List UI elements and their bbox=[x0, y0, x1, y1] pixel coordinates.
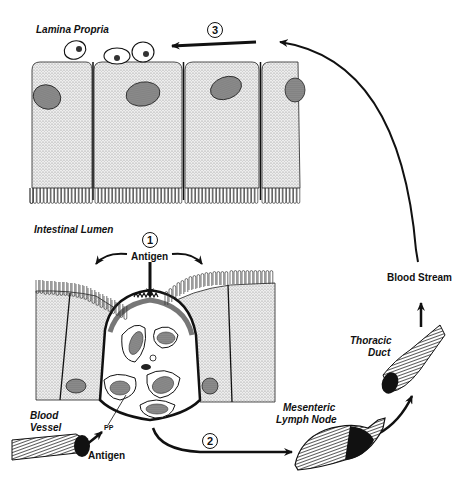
top-epithelium bbox=[30, 62, 305, 204]
bloodstream-to-lamina-arrow bbox=[280, 42, 418, 262]
blood-vessel-label-line1: Blood bbox=[30, 410, 58, 421]
mesenteric-label-line1: Mesenteric bbox=[283, 402, 335, 413]
diagram-canvas bbox=[0, 0, 471, 485]
mesenteric-label-line2: Lymph Node bbox=[276, 414, 337, 425]
thoracic-duct-label-line1: Thoracic bbox=[350, 335, 392, 346]
blood-vessel-label-line2: Vessel bbox=[30, 422, 61, 433]
step-3-arrow bbox=[172, 42, 256, 46]
lamina-propria-label: Lamina Propria bbox=[36, 24, 109, 35]
step-2-badge: 2 bbox=[202, 433, 218, 449]
antigen-label-top: Antigen bbox=[131, 251, 168, 262]
step-3-badge: 3 bbox=[207, 22, 223, 38]
mesenteric-lymph-node-drawing bbox=[295, 418, 385, 470]
step-1-badge: 1 bbox=[142, 232, 158, 248]
intestinal-lumen-label: Intestinal Lumen bbox=[34, 224, 113, 235]
thoracic-duct-label-line2: Duct bbox=[368, 347, 390, 358]
antigen-label-bottom: Antigen bbox=[88, 450, 125, 461]
lamina-lymphocytes bbox=[62, 38, 154, 64]
step-2-arrow bbox=[153, 428, 292, 452]
blood-vessel-drawing bbox=[12, 434, 90, 460]
blood-stream-label: Blood Stream bbox=[387, 272, 452, 283]
antigen-right-arrow bbox=[172, 254, 202, 264]
microvilli-top bbox=[30, 188, 300, 203]
bottom-epithelium bbox=[36, 271, 275, 420]
pp-label: PP bbox=[104, 424, 113, 432]
antigen-left-arrow bbox=[96, 254, 127, 264]
